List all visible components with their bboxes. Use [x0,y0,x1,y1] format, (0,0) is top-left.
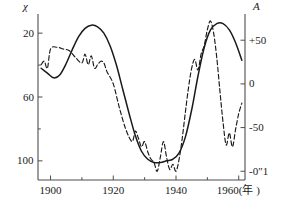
series-group [41,21,242,171]
y-left-tick-label: 60 [23,92,34,103]
x-tick-label: 1940 [165,185,187,196]
x-tick-label: 1900 [40,185,62,196]
y-right-tick-label: -0″1 [249,166,268,177]
chart-canvas [0,0,281,209]
smooth-solid-curve [41,23,242,163]
x-tick-label: 1960(年 ) [217,185,260,196]
y-left-tick-label: 20 [23,28,34,39]
right-axis-title: A [253,1,260,12]
x-tick-label: 1920 [102,185,124,196]
y-right-tick-label: 0 [249,78,255,89]
y-left-tick-label: 100 [17,155,34,166]
y-right-tick-label: +50 [249,35,266,46]
y-right-tick-label: -50 [249,122,264,133]
oscillating-dashed-curve [41,21,242,171]
chart-figure: 1900192019401960(年 )2060100+500-50-0″1χA [0,0,281,209]
left-axis-title: χ [23,1,28,12]
